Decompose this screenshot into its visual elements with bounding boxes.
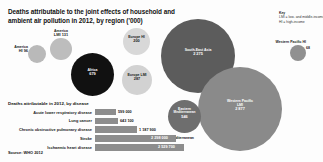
bubble-label-europe-hi: Europe HI 200	[123, 35, 150, 44]
bubble-label-western-pacific-lmi: Western Pacific LMI 2 877	[198, 99, 282, 112]
legend-item-hi: HI = high-income	[279, 20, 323, 24]
bar-value-chronic-obstructive-pulmonary-disease: 1 187 900	[139, 128, 156, 132]
bubble-value-western-pacific-hi: 68	[306, 46, 310, 50]
bubble-value-america-hi: HI 96	[4, 49, 28, 54]
bar-lung-cancer	[95, 118, 118, 125]
bubble-label-africa: Africa 679	[71, 68, 114, 77]
bubble-america-hi	[28, 45, 46, 63]
page-title: Deaths attributable to the joint effects…	[8, 7, 198, 25]
bar-label-stroke: Stroke	[8, 136, 95, 141]
infographic-canvas: Deaths attributable to the joint effects…	[0, 0, 323, 162]
bar-track: 1 187 900	[95, 126, 184, 133]
bar-chart-title: Deaths attributable in 2012, by disease	[8, 101, 184, 106]
bubble-value-america-lmi: LMI 131	[44, 33, 78, 38]
bubble-value-africa: 679	[71, 72, 114, 77]
bar-label-chronic-obstructive-pulmonary-disease: Chronic obstructive pulmonary disease	[8, 127, 95, 132]
bubble-label-western-pacific-hi: Western Pacific HI	[258, 40, 306, 44]
title-line-1: Deaths attributable to the joint effects…	[8, 8, 175, 15]
bubble-value-south-east-asia: 2 275	[161, 52, 235, 57]
bubble-label-south-east-asia: South-East Asia 2 275	[161, 48, 235, 57]
bar-value-ischaemic-heart-disease: 2 529 700	[158, 145, 175, 149]
bar-track: 2 298 000	[95, 135, 184, 142]
table-row: Chronic obstructive pulmonary disease 1 …	[8, 126, 184, 133]
disease-bar-chart: Deaths attributable in 2012, by disease …	[8, 101, 184, 152]
bar-track: 599 000	[95, 109, 184, 116]
bar-acute-lower-respiratory-disease	[95, 109, 116, 116]
source-note: Source: WHO 2012	[8, 150, 43, 155]
bubble-label-western-pacific-hi-name: Western Pacific HI	[276, 40, 306, 44]
bar-value-lung-cancer: 643 100	[120, 119, 134, 123]
title-line-2: ambient air pollution in 2012, by region…	[8, 16, 198, 25]
bubble-value-europe-lmi: 287	[122, 77, 152, 82]
table-row: Lung cancer 643 100	[8, 117, 184, 124]
legend: Key LMI = low- and middle-income HI = hi…	[279, 11, 323, 24]
bar-value-acute-lower-respiratory-disease: 599 000	[118, 110, 132, 114]
bubble-value-western-pacific-hi-wrap: 68	[306, 46, 320, 50]
bubble-label-america-hi: America HI 96	[4, 45, 28, 54]
bar-track: 2 529 700	[95, 144, 184, 151]
bar-value-stroke: 2 298 000	[151, 136, 168, 140]
table-row: Stroke 2 298 000	[8, 135, 184, 142]
bubble-value-western-pacific-lmi: 2 877	[198, 107, 282, 112]
bar-chronic-obstructive-pulmonary-disease	[95, 126, 137, 133]
bar-label-acute-lower-respiratory-disease: Acute lower respiratory disease	[8, 110, 95, 115]
bar-track: 643 100	[95, 118, 184, 125]
bubble-western-pacific-hi	[290, 45, 306, 61]
bar-label-lung-cancer: Lung cancer	[8, 118, 95, 123]
bubble-value-europe-hi: 200	[123, 39, 150, 44]
bubble-america-lmi	[50, 38, 72, 60]
bubble-label-america-lmi: America LMI 131	[44, 29, 78, 38]
table-row: Acute lower respiratory disease 599 000	[8, 109, 184, 116]
bubble-label-europe-lmi: Europe LMI 287	[122, 73, 152, 82]
